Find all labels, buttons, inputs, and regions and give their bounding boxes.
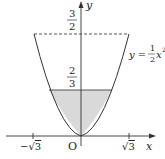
curve-eq-exp: 2 bbox=[162, 46, 165, 53]
y-axis-label: y bbox=[85, 0, 93, 12]
parabola-diagram: y x O −√3 √3 3 2 2 3 y = 1 2 x 2 bbox=[0, 0, 165, 159]
origin-label: O bbox=[68, 140, 77, 153]
dashed-level-denominator: 2 bbox=[69, 21, 75, 32]
shaded-region bbox=[49, 90, 112, 136]
pos-root3-label: √3 bbox=[122, 141, 135, 152]
y-axis-arrow-icon bbox=[79, 1, 84, 8]
curve-eq-coef-den: 2 bbox=[150, 55, 155, 64]
curve-eq-coef-num: 1 bbox=[150, 44, 155, 53]
neg-root3-label: −√3 bbox=[20, 141, 41, 152]
shaded-level-denominator: 3 bbox=[69, 78, 75, 89]
x-axis-label: x bbox=[146, 140, 153, 153]
dashed-level-numerator: 3 bbox=[69, 8, 75, 19]
curve-eq-y: y = bbox=[128, 49, 146, 60]
shaded-level-numerator: 2 bbox=[69, 65, 75, 76]
x-axis-arrow-icon bbox=[149, 134, 156, 139]
